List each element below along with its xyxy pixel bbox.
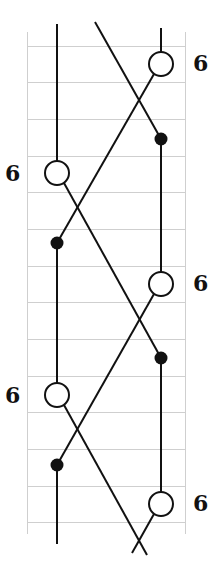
open-node-icon xyxy=(45,383,69,407)
filled-node-icon xyxy=(155,133,168,146)
braid-diagram xyxy=(0,0,212,566)
filled-node-icon xyxy=(51,459,64,472)
strands xyxy=(57,22,161,555)
open-node-icon xyxy=(149,52,173,76)
node-label: 6 xyxy=(193,52,208,74)
open-node-icon xyxy=(149,272,173,296)
open-node-icon xyxy=(149,492,173,516)
open-nodes xyxy=(45,52,173,516)
filled-node-icon xyxy=(51,237,64,250)
node-label: 6 xyxy=(193,272,208,294)
node-label: 6 xyxy=(5,384,20,406)
filled-node-icon xyxy=(155,352,168,365)
open-node-icon xyxy=(45,161,69,185)
node-label: 6 xyxy=(193,492,208,514)
node-label: 6 xyxy=(5,162,20,184)
